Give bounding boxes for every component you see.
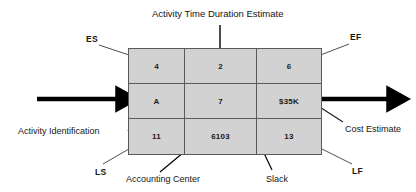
activity-node-grid: 4 2 6 A 7 $35K 11 6103 13 [128,48,322,155]
activity-node-diagram: Activity Time Duration Estimate ES EF LS… [0,0,416,192]
cell-cost-estimate: $35K [257,84,321,119]
label-slack: Slack [266,174,288,184]
cell-late-finish: 13 [257,119,321,154]
cell-duration: 2 [185,49,257,84]
label-ef: EF [350,32,361,42]
label-cost-estimate: Cost Estimate [345,124,401,134]
cell-early-finish: 6 [257,49,321,84]
cell-activity-identification: A [129,84,185,119]
label-ls: LS [95,167,106,177]
label-accounting-center: Accounting Center [126,174,200,184]
label-activity-identification: Activity Identification [18,126,100,136]
cell-early-start: 4 [129,49,185,84]
label-lf: LF [352,166,363,176]
title-annotation: Activity Time Duration Estimate [152,8,283,19]
cell-slack: 7 [185,84,257,119]
cell-late-start: 11 [129,119,185,154]
label-es: ES [86,34,98,44]
cell-accounting-center: 6103 [185,119,257,154]
